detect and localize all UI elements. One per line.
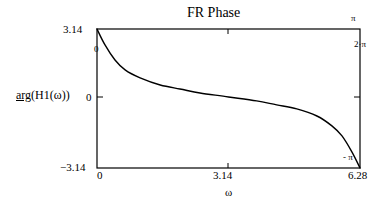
- plot-area: [0, 0, 388, 206]
- phase-curve: [97, 29, 360, 168]
- plot-frame: [97, 29, 360, 168]
